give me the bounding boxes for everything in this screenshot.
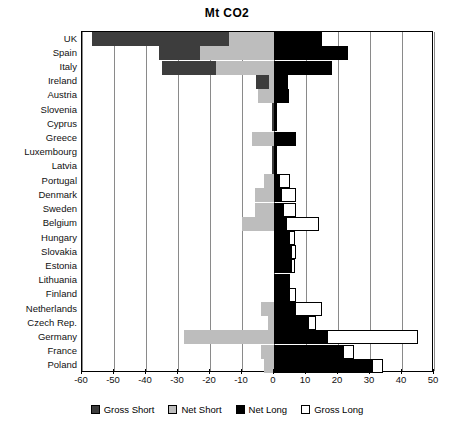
bar-row xyxy=(82,231,432,245)
bar-row xyxy=(82,188,432,202)
legend-item: Gross Long xyxy=(301,404,363,415)
segment-net-short xyxy=(184,330,274,344)
bar-row xyxy=(82,288,432,302)
x-axis-tick-mark xyxy=(209,369,210,374)
segment-net-short xyxy=(216,61,274,75)
y-axis-label: UK xyxy=(0,33,77,44)
legend-swatch-icon xyxy=(236,405,245,414)
segment-net-short xyxy=(255,203,274,217)
bar-row xyxy=(82,146,432,160)
segment-net-long xyxy=(274,274,290,288)
y-axis-label: Estonia xyxy=(0,260,77,271)
x-axis-tick-mark xyxy=(433,369,434,374)
y-axis-label: Portugal xyxy=(0,175,77,186)
y-axis-label: Slovenia xyxy=(0,104,77,115)
y-axis-label: Spain xyxy=(0,47,77,58)
plot-area xyxy=(81,31,433,372)
bar-row xyxy=(82,132,432,146)
bar-row xyxy=(82,359,432,373)
y-axis-label: Latvia xyxy=(0,160,77,171)
x-axis-tick-mark xyxy=(177,369,178,374)
segment-net-long xyxy=(274,174,280,188)
bar-row xyxy=(82,174,432,188)
bar-row xyxy=(82,302,432,316)
y-axis-label: Ireland xyxy=(0,75,77,86)
segment-net-long xyxy=(274,46,348,60)
segment-net-long xyxy=(274,160,277,174)
y-axis-label: Hungary xyxy=(0,232,77,243)
chart-legend: Gross ShortNet ShortNet LongGross Long xyxy=(0,404,454,415)
legend-swatch-icon xyxy=(168,405,177,414)
x-axis-tick-mark xyxy=(241,369,242,374)
segment-net-long xyxy=(274,117,277,131)
segment-net-long xyxy=(274,146,277,160)
x-axis-tick-mark xyxy=(81,369,82,374)
segment-net-short xyxy=(261,345,274,359)
bar-row xyxy=(82,32,432,46)
legend-label: Gross Long xyxy=(314,404,363,415)
y-axis-label: Lithuania xyxy=(0,274,77,285)
segment-net-long xyxy=(274,259,292,273)
segment-gross-short xyxy=(162,61,216,75)
segment-net-long xyxy=(274,188,282,202)
segment-net-short xyxy=(200,46,274,60)
segment-net-long xyxy=(274,61,332,75)
y-axis-label: Denmark xyxy=(0,189,77,200)
segment-net-short xyxy=(261,302,274,316)
segment-gross-short xyxy=(256,75,269,89)
segment-net-short xyxy=(242,217,274,231)
segment-net-long xyxy=(274,245,292,259)
bar-row xyxy=(82,117,432,131)
y-axis-label: Sweden xyxy=(0,203,77,214)
bar-row xyxy=(82,259,432,273)
segment-net-short xyxy=(229,32,274,46)
chart-container: Mt CO2 UKSpainItalyIrelandAustriaSloveni… xyxy=(0,0,454,440)
segment-net-long xyxy=(274,75,288,89)
segment-net-long xyxy=(274,217,287,231)
x-axis-tick-mark xyxy=(369,369,370,374)
y-axis-label: Cyprus xyxy=(0,118,77,129)
bar-row xyxy=(82,316,432,330)
legend-label: Gross Short xyxy=(104,404,155,415)
segment-net-long xyxy=(274,132,296,146)
segment-gross-short xyxy=(159,46,201,60)
x-axis-tick-mark xyxy=(113,369,114,374)
x-axis-tick-mark xyxy=(401,369,402,374)
y-axis-label: Belgium xyxy=(0,217,77,228)
legend-item: Gross Short xyxy=(91,404,155,415)
legend-swatch-icon xyxy=(301,405,310,414)
segment-net-long xyxy=(274,203,284,217)
bar-row xyxy=(82,345,432,359)
bar-row xyxy=(82,89,432,103)
segment-net-long xyxy=(274,359,373,373)
y-axis-label: France xyxy=(0,345,77,356)
segment-net-long xyxy=(274,103,277,117)
y-axis-label: Luxembourg xyxy=(0,146,77,157)
legend-swatch-icon xyxy=(91,405,100,414)
y-axis-label: Italy xyxy=(0,61,77,72)
segment-net-long xyxy=(274,288,290,302)
y-axis-label: Czech Rep. xyxy=(0,317,77,328)
y-axis-label: Netherlands xyxy=(0,303,77,314)
legend-label: Net Short xyxy=(181,404,221,415)
segment-net-short xyxy=(264,174,274,188)
legend-label: Net Long xyxy=(249,404,288,415)
x-axis-tick-mark xyxy=(305,369,306,374)
y-axis-label: Greece xyxy=(0,132,77,143)
segment-net-long xyxy=(274,302,296,316)
segment-net-long xyxy=(274,231,290,245)
bar-row xyxy=(82,245,432,259)
chart-title: Mt CO2 xyxy=(0,6,454,20)
segment-net-short xyxy=(252,132,274,146)
x-axis-tick-label: 50 xyxy=(413,374,453,385)
y-axis-label: Slovakia xyxy=(0,246,77,257)
bar-row xyxy=(82,46,432,60)
segment-net-long xyxy=(274,345,344,359)
bar-row xyxy=(82,61,432,75)
y-axis-labels: UKSpainItalyIrelandAustriaSloveniaCyprus… xyxy=(0,31,77,372)
bar-row xyxy=(82,274,432,288)
y-axis-label: Germany xyxy=(0,331,77,342)
x-axis-tick-mark xyxy=(337,369,338,374)
y-axis-label: Finland xyxy=(0,288,77,299)
bar-series-group xyxy=(82,32,432,371)
